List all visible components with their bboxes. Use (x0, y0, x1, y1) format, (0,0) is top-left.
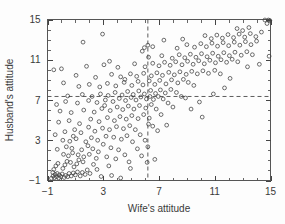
y-tick-label: 15 (29, 14, 41, 25)
data-point (121, 108, 125, 112)
data-point (76, 170, 80, 174)
scatter-plot-figure: −1371115−1371115Wife's attitudeHusband's… (0, 0, 285, 224)
data-point (223, 86, 227, 90)
data-point (92, 110, 96, 114)
data-point (136, 147, 140, 151)
data-point (165, 123, 169, 127)
data-point (188, 52, 192, 56)
data-point (82, 155, 86, 159)
data-point (227, 44, 231, 48)
y-tick-label: 11 (30, 54, 41, 65)
data-point (237, 32, 241, 36)
data-point (126, 104, 130, 108)
data-point (230, 57, 234, 61)
data-point (232, 36, 236, 40)
data-point (119, 75, 123, 79)
data-point (52, 68, 56, 72)
data-point (70, 146, 74, 150)
data-point (110, 72, 114, 76)
data-point (133, 62, 137, 66)
data-point (169, 88, 173, 92)
data-point (143, 138, 147, 142)
data-point (95, 101, 99, 105)
data-point (136, 79, 140, 83)
data-point (228, 76, 232, 80)
x-tick-label: 3 (100, 186, 106, 197)
y-axis-title: Husband's attitude (4, 58, 15, 141)
data-point (216, 44, 220, 48)
data-point (104, 134, 108, 138)
data-point (162, 38, 166, 42)
data-point (156, 129, 160, 133)
data-point (185, 43, 189, 47)
data-point (87, 152, 91, 156)
data-point (177, 53, 181, 57)
data-point (130, 84, 134, 88)
data-point (103, 104, 107, 108)
data-point (119, 176, 123, 180)
data-point (155, 71, 159, 75)
data-point (200, 52, 204, 56)
data-point (213, 68, 217, 72)
data-point (246, 65, 250, 69)
data-point (111, 100, 115, 104)
data-point (117, 148, 121, 152)
data-point (131, 140, 135, 144)
data-point (63, 130, 67, 134)
data-point (184, 72, 188, 76)
data-point (153, 83, 157, 87)
data-point (214, 61, 218, 65)
data-point (99, 175, 103, 179)
data-point (199, 42, 203, 46)
data-point (106, 94, 110, 98)
data-point (57, 120, 61, 124)
data-point (260, 30, 264, 34)
data-point (98, 85, 102, 89)
data-point (62, 81, 66, 85)
data-point (105, 155, 109, 159)
data-point (88, 172, 92, 176)
data-point (85, 64, 89, 68)
data-point (113, 91, 117, 95)
data-point (191, 62, 195, 66)
data-point (67, 119, 71, 123)
data-point (151, 124, 155, 128)
data-point (221, 36, 225, 40)
data-point (108, 109, 112, 113)
data-point (218, 72, 222, 76)
data-point (194, 55, 198, 59)
data-point (79, 131, 83, 135)
data-point (200, 115, 204, 119)
data-point (122, 127, 126, 131)
data-point (115, 105, 119, 109)
data-point (61, 138, 65, 142)
data-point (137, 89, 141, 93)
data-point (64, 145, 68, 149)
data-point (142, 92, 146, 96)
data-point (216, 54, 220, 58)
data-point (147, 122, 151, 126)
data-point (151, 61, 155, 65)
data-point (87, 125, 91, 129)
data-point (56, 161, 60, 165)
data-point (135, 74, 139, 78)
data-point (120, 93, 124, 97)
data-point (157, 64, 161, 68)
data-point (238, 43, 242, 47)
data-point (144, 106, 148, 110)
data-point (211, 92, 215, 96)
data-point (124, 117, 128, 121)
data-point (215, 33, 219, 37)
data-point (170, 56, 174, 60)
data-point (243, 35, 247, 39)
data-point (175, 46, 179, 50)
data-point (219, 58, 223, 62)
data-point (142, 113, 146, 117)
data-point (78, 122, 82, 126)
data-point (94, 75, 98, 79)
data-point (106, 82, 110, 86)
data-point (92, 163, 96, 167)
data-point (76, 153, 80, 157)
data-point (149, 103, 153, 107)
data-point (73, 128, 77, 132)
